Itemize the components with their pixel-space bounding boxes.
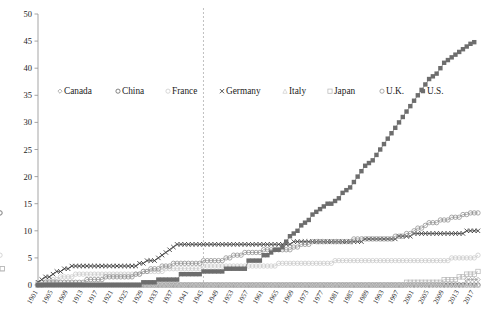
x-tick-label: 2009 <box>432 289 446 306</box>
legend-marker-us <box>421 89 425 93</box>
x-tick-label: 1929 <box>131 289 145 306</box>
legend-label-uk: U.K. <box>386 86 404 96</box>
legend-marker-canada <box>58 89 62 93</box>
legend-marker-china <box>116 89 120 93</box>
y-tick-label: 50 <box>24 9 33 19</box>
x-tick-label: 1977 <box>311 289 325 306</box>
chart-svg: 05101520253035404550 1901190519091913191… <box>0 0 483 323</box>
x-tick-label: 1949 <box>206 289 220 306</box>
x-tick-label: 1985 <box>342 289 356 306</box>
y-tick-label: 5 <box>28 253 32 263</box>
y-tick-label: 25 <box>24 145 33 155</box>
legend-marker-uk <box>380 89 384 93</box>
chart-series <box>0 40 480 287</box>
nobel-laureates-cumulative-chart: 05101520253035404550 1901190519091913191… <box>0 0 483 323</box>
x-tick-label: 1965 <box>266 289 280 306</box>
x-tick-label: 1957 <box>236 289 250 306</box>
x-tick-label: 1901 <box>26 289 40 306</box>
legend-marker-italy <box>283 89 287 93</box>
legend-marker-france <box>166 89 170 93</box>
x-tick-label: 1925 <box>116 289 130 306</box>
x-tick-label: 2005 <box>417 289 431 306</box>
x-tick-label: 1909 <box>56 289 70 306</box>
x-tick-label: 1937 <box>161 289 175 306</box>
x-axis: 1901190519091913191719211925192919331937… <box>26 285 478 305</box>
legend-label-japan: Japan <box>334 86 356 96</box>
y-tick-label: 35 <box>24 90 33 100</box>
y-tick-label: 30 <box>24 117 33 127</box>
y-tick-label: 40 <box>24 63 33 73</box>
x-tick-label: 1981 <box>326 289 340 306</box>
x-tick-label: 1969 <box>281 289 295 306</box>
x-tick-label: 1989 <box>357 289 371 306</box>
x-tick-label: 1941 <box>176 289 190 306</box>
legend-label-france: France <box>172 86 197 96</box>
legend-label-canada: Canada <box>64 86 92 96</box>
legend-label-italy: Italy <box>289 86 306 96</box>
x-tick-label: 1953 <box>221 289 235 306</box>
x-tick-label: 1993 <box>372 289 386 306</box>
legend-marker-japan <box>328 89 332 93</box>
x-tick-label: 2001 <box>402 289 416 306</box>
legend-label-us: U.S. <box>427 86 444 96</box>
x-tick-label: 1961 <box>251 289 265 306</box>
x-tick-label: 1997 <box>387 289 401 306</box>
y-tick-label: 0 <box>28 280 32 290</box>
x-tick-label: 1913 <box>71 289 85 306</box>
legend-label-china: China <box>122 86 144 96</box>
x-tick-label: 1973 <box>296 289 310 306</box>
chart-legend: CanadaChinaFranceGermanyItalyJapanU.K.U.… <box>58 86 444 96</box>
y-tick-label: 45 <box>24 36 33 46</box>
x-tick-label: 1945 <box>191 289 205 306</box>
x-tick-label: 1921 <box>101 289 115 306</box>
legend-marker-germany <box>220 89 224 93</box>
x-tick-label: 2013 <box>447 289 461 306</box>
legend-label-germany: Germany <box>226 86 261 96</box>
y-tick-label: 10 <box>24 226 33 236</box>
x-tick-label: 1917 <box>86 289 100 306</box>
x-tick-label: 1905 <box>41 289 55 306</box>
x-tick-label: 2017 <box>462 289 476 306</box>
y-axis: 05101520253035404550 <box>24 9 39 290</box>
series-uk <box>0 211 480 287</box>
y-tick-label: 15 <box>24 199 33 209</box>
y-tick-label: 20 <box>24 172 33 182</box>
x-tick-label: 1933 <box>146 289 160 306</box>
